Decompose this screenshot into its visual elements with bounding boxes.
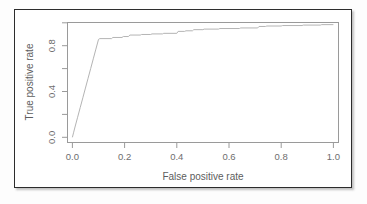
x-tick-label-5: 1.0 [327,151,340,162]
roc-plot-svg: 0.0 0.4 0.8 0.0 0.2 0.4 0.6 0.8 1.0 Fals… [15,10,350,186]
x-tick-label-3: 0.6 [222,151,235,162]
y-tick-label-1: 0.4 [46,85,57,98]
x-axis-title: False positive rate [162,171,244,182]
y-axis-tick-labels: 0.0 0.4 0.8 [46,39,57,144]
plot-frame [68,23,339,143]
figure-root: 0.0 0.4 0.8 0.0 0.2 0.4 0.6 0.8 1.0 Fals… [0,0,367,204]
y-axis-title: True positive rate [24,43,35,120]
x-tick-label-2: 0.4 [170,151,183,162]
x-tick-label-4: 0.8 [275,151,288,162]
x-tick-label-1: 0.2 [118,151,131,162]
x-axis-ticks [72,143,333,149]
y-tick-label-0: 0.0 [46,131,57,144]
roc-curve-line [72,25,333,138]
x-axis-tick-labels: 0.0 0.2 0.4 0.6 0.8 1.0 [66,151,340,162]
figure-border-box: 0.0 0.4 0.8 0.0 0.2 0.4 0.6 0.8 1.0 Fals… [14,9,352,188]
x-tick-label-0: 0.0 [66,151,79,162]
y-tick-label-2: 0.8 [46,39,57,52]
y-axis-ticks [62,23,68,138]
